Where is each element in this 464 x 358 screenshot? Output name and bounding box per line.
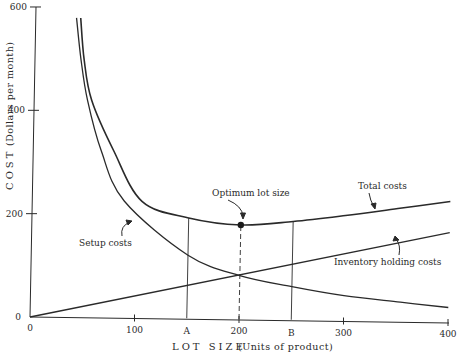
y-tick-label: 0: [15, 312, 21, 322]
x-axis-title-main: LOT SIZE: [172, 341, 246, 352]
total-costs-arrowhead-icon: [371, 203, 376, 209]
x-tick-label: 300: [335, 328, 352, 338]
reference-line-b: [291, 222, 293, 320]
optimum-point-marker: [238, 222, 244, 228]
y-axis-title: COST (Dollars per month): [4, 42, 15, 190]
x-letter-tick-label: B: [288, 328, 295, 338]
y-tick-label: 600: [10, 2, 27, 12]
reference-line-a: [187, 218, 189, 318]
y-tick-label: 200: [6, 209, 23, 219]
eoq-cost-chart: 0200400600 0100200300400AB COST (Dollars…: [0, 0, 464, 358]
x-tick-label: 400: [439, 329, 456, 339]
y-axis-title-sub: (Dollars per month): [4, 42, 15, 146]
optimum-arrowhead-icon: [241, 213, 246, 219]
total-costs-label: Total costs: [358, 181, 407, 191]
x-letter-tick-label: A: [183, 326, 191, 336]
x-tick-label: 200: [230, 326, 247, 336]
inventory-arrow-icon: [396, 239, 400, 255]
inventory-arrowhead-icon: [393, 236, 399, 241]
reference-lines: [187, 218, 293, 320]
y-axis-title-main: COST: [4, 149, 15, 190]
x-axis-title-sub: (Units of product): [238, 341, 333, 352]
cost-curves: [30, 18, 450, 317]
setup-costs-arrowhead-icon: [126, 220, 132, 225]
inventory-holding-costs-label: Inventory holding costs: [334, 257, 442, 267]
setup-costs-label: Setup costs: [79, 238, 132, 248]
x-tick-label: 0: [27, 323, 33, 333]
optimum-lot-size-label: Optimum lot size: [212, 188, 290, 198]
y-axis: [30, 7, 36, 317]
reference-line-200: [239, 225, 241, 319]
x-tick-label: 100: [126, 325, 143, 335]
